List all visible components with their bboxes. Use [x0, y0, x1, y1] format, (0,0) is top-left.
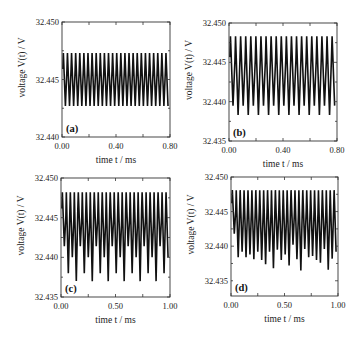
y-tick-label: 32.445: [35, 213, 58, 223]
panel-c: 0.000.501.0032.43532.44032.44532.450time…: [16, 173, 177, 325]
x-tick-label: 0.50: [108, 301, 123, 311]
panel-label: (b): [233, 127, 246, 139]
x-tick-label: 0.40: [276, 145, 291, 155]
y-tick-label: 32.450: [205, 172, 228, 182]
x-tick-label: 0.80: [163, 141, 178, 151]
y-tick-label: 32.445: [36, 75, 59, 85]
x-tick-label: 0.80: [330, 145, 345, 155]
panel-a: 0.000.400.8032.44032.44532.450time t / m…: [17, 17, 177, 165]
x-tick-label: 0.00: [54, 301, 69, 311]
y-tick-label: 32.450: [36, 17, 59, 27]
x-tick-label: 0.00: [222, 145, 237, 155]
y-axis-title: voltage V(t) / V: [186, 194, 197, 254]
x-axis-title: time t / ms: [95, 315, 136, 325]
y-axis-title: voltage V(t) / V: [17, 37, 28, 97]
x-tick-label: 0.00: [55, 141, 70, 151]
x-axis-title: time t / ms: [96, 155, 137, 165]
y-tick-label: 32.440: [35, 252, 58, 262]
y-axis-title: voltage V(t) / V: [16, 195, 27, 255]
y-axis-title: voltage V(t) / V: [184, 40, 195, 100]
x-tick-label: 1.00: [163, 301, 178, 311]
y-tick-label: 32.435: [203, 136, 226, 146]
panel-d: 0.000.501.0032.43532.44032.44532.450time…: [186, 172, 345, 324]
x-axis-title: time t / ms: [263, 159, 304, 169]
y-tick-label: 32.450: [35, 173, 58, 183]
panel-label: (c): [65, 283, 77, 295]
y-tick-label: 32.450: [203, 18, 226, 28]
panel-b: 0.000.400.8032.43532.44032.44532.450time…: [184, 18, 344, 169]
voltage-trace: [62, 192, 168, 281]
x-tick-label: 0.40: [109, 141, 124, 151]
x-axis-title: time t / ms: [264, 314, 305, 324]
voltage-trace: [63, 53, 168, 106]
y-tick-label: 32.445: [205, 207, 228, 217]
figure: 0.000.400.8032.44032.44532.450time t / m…: [0, 0, 360, 343]
y-tick-label: 32.435: [205, 276, 228, 286]
panel-label: (d): [235, 282, 248, 294]
panel-label: (a): [66, 123, 79, 135]
x-tick-label: 1.00: [331, 300, 346, 310]
voltage-trace: [230, 36, 335, 115]
y-tick-label: 32.440: [36, 132, 59, 142]
voltage-trace: [232, 190, 336, 270]
y-tick-label: 32.445: [203, 57, 226, 67]
x-tick-label: 0.00: [224, 300, 239, 310]
y-tick-label: 32.440: [203, 97, 226, 107]
x-tick-label: 0.50: [277, 300, 292, 310]
y-tick-label: 32.440: [205, 241, 228, 251]
y-tick-label: 32.435: [35, 292, 58, 302]
